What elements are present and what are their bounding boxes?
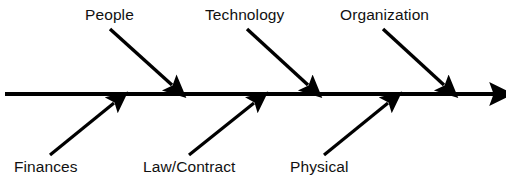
category-label-people: People	[85, 6, 134, 24]
category-label-finances: Finances	[14, 158, 78, 176]
category-label-organization: Organization	[340, 6, 429, 24]
bone-arrow-organization	[383, 29, 444, 85]
category-label-physical: Physical	[290, 158, 349, 176]
bone-arrow-law-contract	[189, 103, 254, 155]
category-label-technology: Technology	[205, 6, 284, 24]
category-label-law-contract: Law/Contract	[143, 158, 236, 176]
fishbone-diagram: People Technology Organization Finances …	[0, 0, 506, 187]
bone-arrow-physical	[324, 103, 388, 155]
bone-arrow-people	[110, 29, 172, 85]
bone-arrow-finances	[50, 103, 114, 155]
bone-arrow-technology	[247, 29, 308, 85]
